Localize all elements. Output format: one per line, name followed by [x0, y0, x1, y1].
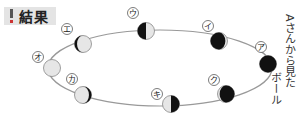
moon-phase-diagram: アイウエオカキク	[0, 0, 297, 117]
svg-text:オ: オ	[34, 53, 42, 62]
moon-2	[211, 33, 228, 50]
svg-text:ク: ク	[210, 76, 218, 85]
moon-8	[218, 86, 235, 103]
svg-text:イ: イ	[204, 22, 212, 31]
svg-text:エ: エ	[63, 25, 71, 34]
side-text-observer: Aさんから見た	[283, 14, 295, 114]
moon-3	[138, 23, 155, 40]
moon-5	[44, 60, 61, 77]
moon-label-7: キ	[152, 89, 163, 100]
svg-text:キ: キ	[153, 90, 161, 99]
moon-label-3: ウ	[128, 8, 139, 19]
moon-label-6: カ	[67, 74, 78, 85]
moon-1	[260, 56, 277, 73]
moon-4	[75, 36, 92, 53]
svg-text:カ: カ	[68, 75, 76, 84]
moon-label-5: オ	[33, 52, 44, 63]
moon-label-1: ア	[256, 42, 267, 53]
moon-label-4: エ	[62, 24, 73, 35]
moon-6	[75, 87, 92, 104]
side-text-ball: ボール	[269, 72, 281, 112]
moon-7	[163, 96, 180, 113]
svg-text:ウ: ウ	[129, 9, 137, 18]
moon-label-2: イ	[203, 21, 214, 32]
svg-text:ア: ア	[257, 43, 265, 52]
moon-label-8: ク	[209, 75, 220, 86]
